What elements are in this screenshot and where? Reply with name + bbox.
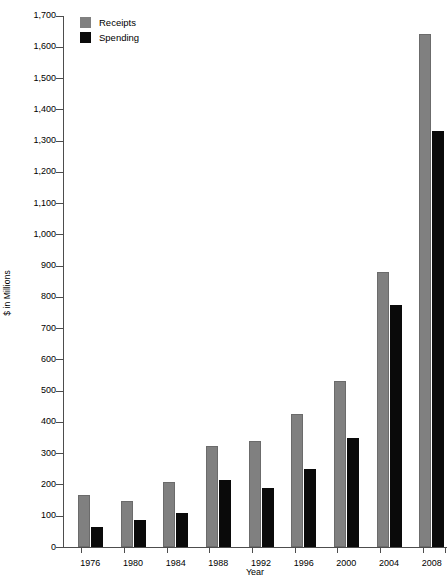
legend-item-receipts: Receipts (80, 15, 139, 30)
x-axis-tick (167, 547, 168, 553)
legend-swatch-spending-icon (80, 32, 91, 43)
y-axis-tick (56, 359, 63, 360)
bar-receipts (334, 381, 346, 547)
x-axis-tick (337, 547, 338, 553)
x-axis-tick (81, 547, 82, 553)
y-axis-tick-label: 1,600 (33, 42, 56, 51)
y-axis-tick-label: 100 (41, 511, 56, 520)
y-axis-tick-label: 700 (41, 324, 56, 333)
bar-spending (432, 131, 444, 547)
x-axis-tick-label: 1988 (208, 558, 228, 568)
legend-label-spending: Spending (99, 32, 139, 43)
y-axis-tick-label: 500 (41, 386, 56, 395)
bar-receipts (206, 446, 218, 547)
plot-area: 197619801984198819921996200020042008 (63, 16, 447, 548)
x-axis-tick (252, 547, 253, 553)
y-axis-tick (56, 328, 63, 329)
y-axis-tick (56, 78, 63, 79)
y-axis-tick-label: 900 (41, 261, 56, 270)
x-axis-tick (124, 547, 125, 553)
bars-layer (63, 16, 447, 548)
y-axis-tick (56, 422, 63, 423)
bar-receipts (121, 501, 133, 547)
y-axis-tick (56, 516, 63, 517)
x-axis-tick-label: 2000 (336, 558, 356, 568)
bar-spending (347, 438, 359, 547)
y-axis-tick-label: 1,400 (33, 105, 56, 114)
x-axis-tick-label: 2008 (422, 558, 442, 568)
chart-legend: Receipts Spending (80, 15, 139, 45)
x-axis-tick-label: 1984 (166, 558, 186, 568)
y-axis-tick-label: 1,100 (33, 199, 56, 208)
y-axis-tick-label: 1,500 (33, 74, 56, 83)
bar-receipts (291, 414, 303, 547)
x-axis-tick-label: 1976 (80, 558, 100, 568)
x-axis-tick-label: 2004 (379, 558, 399, 568)
y-axis-tick (56, 453, 63, 454)
x-axis-tick-label: 1996 (294, 558, 314, 568)
bar-spending (219, 480, 231, 547)
bar-chart: $ in Millions 1,7001,6001,5001,4001,3001… (0, 0, 448, 585)
y-axis-tick-label: 800 (41, 292, 56, 301)
x-axis-tick (445, 547, 446, 553)
y-axis-tick-label: 1,200 (33, 167, 56, 176)
bar-receipts (78, 495, 90, 547)
x-axis-tick (380, 547, 381, 553)
legend-swatch-receipts-icon (80, 17, 91, 28)
x-axis-tick (209, 547, 210, 553)
y-axis-tick (56, 109, 63, 110)
y-axis-tick-label: 1,300 (33, 136, 56, 145)
bar-spending (91, 527, 103, 547)
y-axis-tick-label: 1,700 (33, 11, 56, 20)
bar-spending (134, 520, 146, 548)
y-axis-tick (56, 141, 63, 142)
y-axis-tick (56, 297, 63, 298)
bar-receipts (163, 482, 175, 547)
y-axis-tick (56, 172, 63, 173)
y-axis-tick (56, 391, 63, 392)
x-axis-tick-label: 1992 (251, 558, 271, 568)
y-axis-tick (56, 16, 63, 17)
bar-spending (176, 513, 188, 547)
bar-receipts (419, 34, 431, 547)
y-axis-tick-label: 1,000 (33, 230, 56, 239)
x-axis-tick-label: 1980 (123, 558, 143, 568)
y-axis-tick (56, 203, 63, 204)
x-axis-title: Year (63, 567, 447, 577)
y-axis-tick (56, 234, 63, 235)
y-axis-tick (56, 47, 63, 48)
bar-spending (262, 488, 274, 547)
y-axis-tick-label: 400 (41, 417, 56, 426)
y-axis-tick (56, 266, 63, 267)
y-axis-tick-label: 200 (41, 480, 56, 489)
bar-receipts (249, 441, 261, 547)
legend-label-receipts: Receipts (99, 17, 136, 28)
y-axis-tick-label: 300 (41, 449, 56, 458)
y-axis-tick (56, 547, 63, 548)
y-axis-tick-label: 600 (41, 355, 56, 364)
bar-spending (304, 469, 316, 547)
y-axis-tick-labels: 1,7001,6001,5001,4001,3001,2001,1001,000… (0, 16, 56, 548)
x-axis-line (63, 547, 447, 548)
y-axis-tick (56, 484, 63, 485)
bar-spending (390, 305, 402, 547)
bar-receipts (377, 272, 389, 547)
legend-item-spending: Spending (80, 30, 139, 45)
x-axis-tick (423, 547, 424, 553)
x-axis-tick (295, 547, 296, 553)
